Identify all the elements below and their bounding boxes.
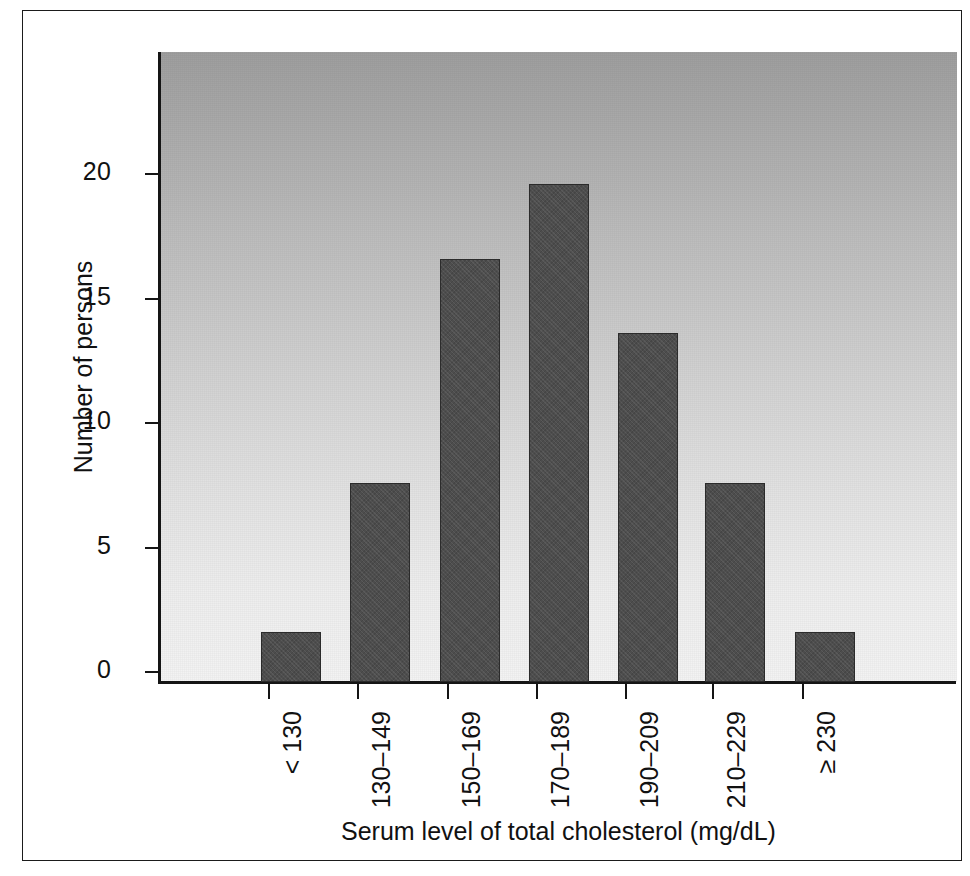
bar	[440, 259, 500, 682]
y-axis-tick	[145, 547, 158, 549]
y-axis-tick-label: 0	[41, 655, 111, 684]
x-axis-category-label: 170–189	[546, 711, 575, 808]
bar	[795, 632, 855, 682]
x-axis-category-label: ≥ 230	[812, 711, 841, 773]
y-axis-tick	[145, 298, 158, 300]
bar	[705, 483, 765, 682]
x-axis-tick	[625, 684, 627, 699]
y-axis-title: Number of persons	[69, 261, 98, 474]
bar-series	[160, 52, 957, 682]
bar	[261, 632, 321, 682]
x-axis-category-label: 190–209	[635, 711, 664, 808]
bar	[618, 333, 678, 682]
bar	[350, 483, 410, 682]
x-axis-category-label: 150–169	[457, 711, 486, 808]
x-axis-category-label: < 130	[278, 711, 307, 774]
figure-frame: 05101520 < 130130–149150–169170–189190–2…	[22, 10, 962, 861]
y-axis-tick	[145, 422, 158, 424]
x-axis-tick	[536, 684, 538, 699]
x-axis-tick	[447, 684, 449, 699]
x-axis-tick	[268, 684, 270, 699]
bar	[529, 184, 589, 682]
x-axis-tick	[357, 684, 359, 699]
x-axis-tick	[712, 684, 714, 699]
y-axis-tick-label: 20	[41, 157, 111, 186]
x-axis-category-label: 210–229	[722, 711, 751, 808]
y-axis-tick	[145, 173, 158, 175]
x-axis-category-label: 130–149	[367, 711, 396, 808]
y-axis-tick-label: 5	[41, 531, 111, 560]
y-axis-tick	[145, 671, 158, 673]
x-axis-tick	[802, 684, 804, 699]
x-axis-title: Serum level of total cholesterol (mg/dL)	[160, 817, 957, 846]
